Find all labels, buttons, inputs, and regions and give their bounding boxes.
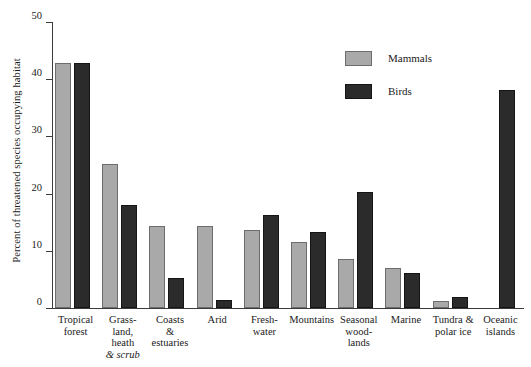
legend: MammalsBirds xyxy=(345,48,475,114)
y-tick-label: 20 xyxy=(12,183,42,194)
bar-mammals[interactable] xyxy=(197,226,213,308)
bar-mammals[interactable] xyxy=(385,268,401,308)
bar-group xyxy=(241,22,288,308)
legend-label: Birds xyxy=(388,85,412,97)
bar-birds[interactable] xyxy=(499,90,515,309)
y-tick-label: 0 xyxy=(12,297,42,308)
bar-chart: Percent of threatened species occupying … xyxy=(0,0,531,367)
bar-mammals[interactable] xyxy=(149,226,165,308)
bar-mammals[interactable] xyxy=(291,242,307,308)
y-tick-label: 50 xyxy=(12,11,42,22)
bar-group xyxy=(52,22,99,308)
bar-mammals[interactable] xyxy=(55,63,71,308)
bar-mammals[interactable] xyxy=(102,164,118,308)
bar-mammals[interactable] xyxy=(244,230,260,308)
bar-birds[interactable] xyxy=(168,278,184,308)
bar-group xyxy=(194,22,241,308)
bar-group xyxy=(99,22,146,308)
bar-mammals[interactable] xyxy=(433,301,449,308)
bar-birds[interactable] xyxy=(452,297,468,308)
bar-birds[interactable] xyxy=(263,215,279,308)
y-tick-label: 30 xyxy=(12,125,42,136)
bar-group xyxy=(288,22,335,308)
x-axis-line xyxy=(52,308,524,309)
bar-birds[interactable] xyxy=(121,205,137,308)
legend-swatch-birds xyxy=(345,84,372,99)
bar-birds[interactable] xyxy=(216,300,232,308)
legend-label: Mammals xyxy=(388,52,432,64)
y-tick-mark xyxy=(46,308,52,309)
legend-item[interactable]: Mammals xyxy=(345,48,475,68)
legend-item[interactable]: Birds xyxy=(345,81,475,101)
bar-birds[interactable] xyxy=(404,273,420,308)
bar-birds[interactable] xyxy=(74,63,90,308)
y-tick-label: 10 xyxy=(12,240,42,251)
legend-swatch-mammals xyxy=(345,51,372,66)
y-tick-label: 40 xyxy=(12,68,42,79)
bar-birds[interactable] xyxy=(357,192,373,308)
bar-birds[interactable] xyxy=(310,232,326,308)
bar-mammals[interactable] xyxy=(338,259,354,308)
bar-group xyxy=(146,22,193,308)
bar-group xyxy=(477,22,524,308)
x-axis-label: Oceanicislands xyxy=(473,314,528,337)
